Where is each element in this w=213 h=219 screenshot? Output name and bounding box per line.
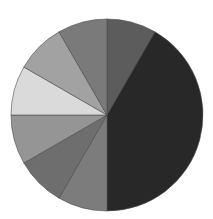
pie-chart bbox=[0, 0, 213, 219]
pie-chart-svg bbox=[0, 0, 213, 219]
